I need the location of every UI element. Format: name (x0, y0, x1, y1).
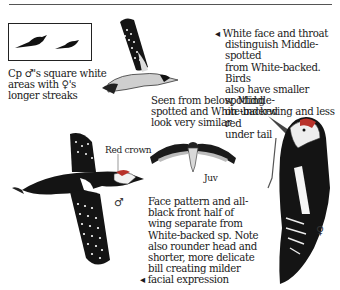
flying-bird-top-illustration (100, 12, 180, 97)
juv-label: Juv (204, 173, 218, 183)
bird-silhouettes-icon (9, 24, 91, 60)
top-rule (9, 4, 332, 5)
flying-bird-below-illustration (148, 132, 238, 177)
caption-face-pattern: Face pattern and all- black front half o… (148, 196, 258, 286)
female-symbol: ♀ (316, 224, 324, 237)
red-crown-label: Red crown (105, 145, 151, 155)
perched-female-illustration (258, 108, 338, 288)
inset-box (8, 23, 92, 61)
male-symbol: ♂ (114, 196, 124, 209)
inset-caption: Cp ♂'s square white areas with ♀'s longe… (8, 68, 107, 102)
